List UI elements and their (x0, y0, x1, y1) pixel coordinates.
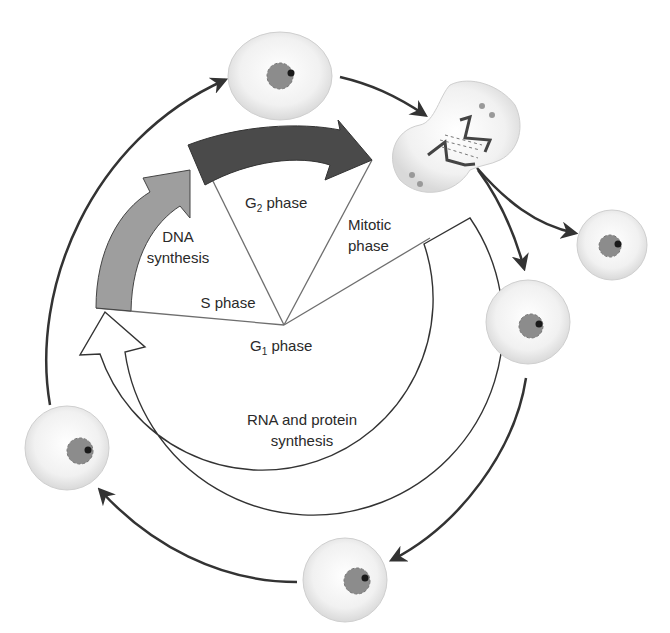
cell-daughter-right (577, 210, 647, 280)
arrow-mitosis-to-right-cell (477, 168, 575, 233)
mitotic-label: Mitotic (348, 216, 392, 233)
s-phase-label: S phase (200, 294, 255, 311)
cell-dividing (393, 81, 520, 192)
rna-protein-label: RNA and protein (247, 411, 357, 428)
g1-arrow (80, 218, 503, 515)
nucleus-icon (267, 63, 293, 89)
g2-phase-arrow (188, 120, 372, 185)
cell-daughter-lower (486, 280, 570, 364)
rna-synthesis-label: synthesis (271, 432, 334, 449)
g1-phase-label: G1 phase (250, 337, 312, 357)
cell-left (25, 406, 109, 490)
cell-bottom (303, 538, 387, 622)
arrow-top-to-mitosis (340, 77, 425, 115)
cell-cycle-diagram: DNA synthesis S phase G2 phase Mitotic p… (0, 0, 670, 633)
g2-phase-label: G2 phase (245, 194, 307, 214)
cell-top (228, 32, 332, 120)
mitotic-phase-label: phase (348, 237, 389, 254)
dna-label: DNA (162, 228, 194, 245)
synthesis-label: synthesis (147, 249, 210, 266)
